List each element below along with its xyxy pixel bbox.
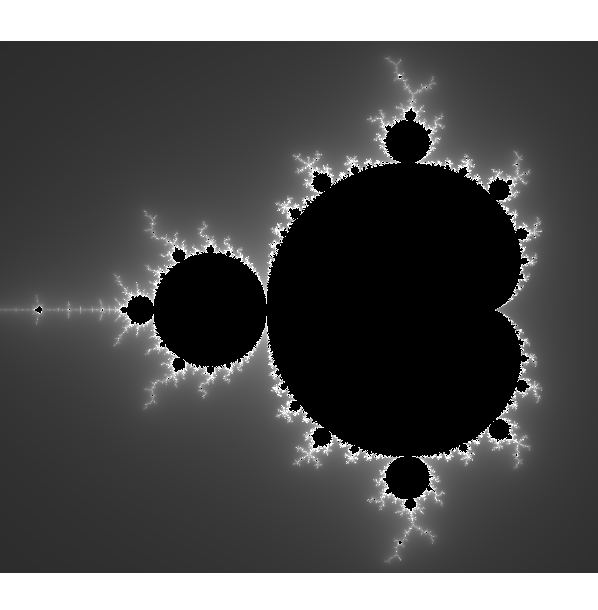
page: Mandelbrot set — [0, 0, 598, 610]
fractal-image: Mandelbrot set — [0, 41, 598, 573]
mandelbrot-canvas — [0, 41, 598, 573]
image-subject: Mandelbrot set — [0, 573, 1, 574]
